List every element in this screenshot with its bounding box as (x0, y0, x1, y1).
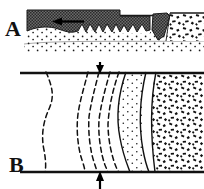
geologic-figure: A (0, 0, 204, 189)
panel-b: B (0, 62, 204, 189)
panel-a-drawing (0, 0, 204, 62)
panel-b-drawing (0, 62, 204, 189)
coarse-breccia-unit (166, 13, 204, 41)
panel-a: A (0, 0, 204, 62)
dashed-fold-trace (43, 72, 53, 172)
dashed-fold-trace (89, 72, 99, 172)
panel-a-label: A (5, 18, 21, 40)
compression-arrow-up (96, 171, 104, 189)
coarse-breccia-unit (152, 72, 204, 172)
dashed-fold-trace (77, 72, 88, 172)
panel-b-label: B (9, 154, 24, 176)
dashed-fold-trace-group (43, 72, 119, 172)
